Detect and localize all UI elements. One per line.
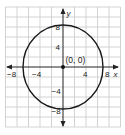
x-axis-label: x [113,70,119,79]
y-axis-bottom-arrow-icon [61,121,66,127]
x-axis-left-arrow-icon [6,65,12,70]
coordinate-plane: (0, 0) x y −8 −4 4 8 8 4 −4 −8 [0,0,125,135]
x-axis-right-arrow-icon [113,65,119,70]
x-tick-label-8: 8 [105,70,110,79]
y-tick-label-4: 4 [56,43,61,52]
y-axis-top-arrow-icon [61,8,66,14]
y-tick-label-neg8: −8 [52,107,62,116]
center-point [61,65,65,69]
y-tick-label-neg4: −4 [52,87,62,96]
y-tick-label-8: 8 [56,23,61,32]
x-tick-label-neg4: −4 [32,70,42,79]
x-tick-label-neg8: −8 [7,70,17,79]
x-tick-label-4: 4 [83,70,88,79]
center-point-label: (0, 0) [66,55,86,65]
circle-graph: (0, 0) x y −8 −4 4 8 8 4 −4 −8 [0,0,125,135]
